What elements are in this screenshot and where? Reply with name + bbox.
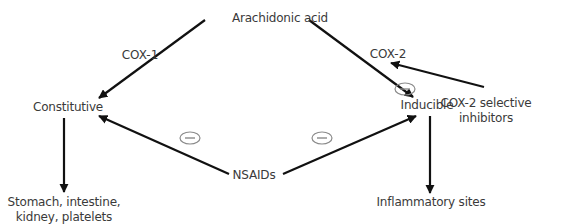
node-constitutive: Constitutive: [33, 100, 103, 115]
node-arachidonic-acid: Arachidonic acid: [232, 11, 328, 26]
node-stomach-intestine-kidney-platelets: Stomach, intestine, kidney, platelets: [8, 195, 121, 224]
node-stomach-line1: Stomach, intestine,: [8, 195, 121, 210]
node-stomach-line2: kidney, platelets: [8, 210, 121, 224]
edge-label-cox2: COX-2: [370, 47, 407, 62]
inhibit-icon: [180, 132, 200, 144]
node-cox2-inhibitors-line1: COX-2 selective: [441, 96, 532, 111]
node-nsaids: NSAIDs: [233, 168, 276, 183]
arrow-nsaids-to-constitutive: [99, 116, 229, 174]
inhibit-icon: [312, 132, 332, 144]
node-cox2-inhibitors-line2: inhibitors: [441, 111, 532, 126]
edge-label-cox1: COX-1: [122, 48, 159, 63]
inhibit-icon: [395, 83, 415, 95]
arrow-nsaids-to-inducible: [283, 116, 416, 174]
node-inflammatory-sites: Inflammatory sites: [376, 195, 485, 210]
node-cox2-selective-inhibitors: COX-2 selective inhibitors: [441, 96, 532, 126]
